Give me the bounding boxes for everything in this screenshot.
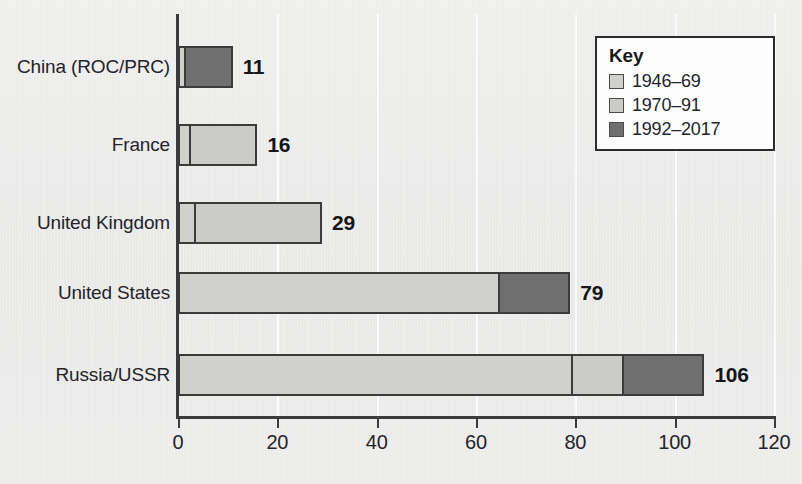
- x-tick-80: [575, 419, 577, 428]
- bar-row: Russia/USSR106: [0, 354, 802, 396]
- stacked-bar[interactable]: [178, 124, 257, 166]
- bar-segment[interactable]: [624, 356, 702, 394]
- x-tick-label-60: 60: [465, 431, 487, 454]
- bar-value-label: 29: [332, 211, 355, 235]
- bar-segment[interactable]: [196, 204, 320, 242]
- stacked-bar[interactable]: [178, 202, 322, 244]
- legend-entry[interactable]: 1970–91: [609, 95, 763, 116]
- x-tick-label-80: 80: [564, 431, 586, 454]
- stacked-bar[interactable]: [178, 272, 570, 314]
- category-label: Russia/USSR: [56, 364, 171, 386]
- legend-label: 1970–91: [632, 95, 701, 116]
- bar-segment[interactable]: [180, 126, 191, 164]
- legend-entry[interactable]: 1946–69: [609, 71, 763, 92]
- x-tick-120: [774, 419, 776, 428]
- bar-segment[interactable]: [191, 126, 255, 164]
- legend-swatch-icon: [609, 74, 624, 89]
- legend-title: Key: [609, 45, 763, 67]
- x-tick-40: [377, 419, 379, 428]
- category-label: United States: [58, 282, 170, 304]
- legend-label: 1992–2017: [632, 119, 720, 140]
- category-label: China (ROC/PRC): [17, 56, 170, 78]
- bar-value-label: 16: [267, 133, 290, 157]
- bar-segment[interactable]: [180, 356, 573, 394]
- bar-value-label: 11: [243, 55, 265, 79]
- stacked-bar[interactable]: [178, 354, 704, 396]
- legend: Key 1946–691970–911992–2017: [595, 36, 775, 151]
- x-tick-label-100: 100: [658, 431, 691, 454]
- bar-row: United Kingdom29: [0, 202, 802, 244]
- stacked-bar[interactable]: [178, 46, 233, 88]
- category-label: United Kingdom: [37, 212, 170, 234]
- bar-value-label: 79: [580, 281, 603, 305]
- x-tick-label-20: 20: [266, 431, 288, 454]
- x-tick-100: [675, 419, 677, 428]
- bar-segment[interactable]: [186, 48, 230, 86]
- bar-segment[interactable]: [180, 274, 500, 312]
- bar-segment[interactable]: [500, 274, 568, 312]
- x-tick-60: [476, 419, 478, 428]
- x-tick-0: [178, 419, 180, 428]
- category-label: France: [112, 134, 170, 156]
- legend-swatch-icon: [609, 122, 624, 137]
- bar-value-label: 106: [714, 363, 748, 387]
- x-tick-label-40: 40: [366, 431, 388, 454]
- legend-label: 1946–69: [632, 71, 701, 92]
- bar-row: United States79: [0, 272, 802, 314]
- x-tick-20: [277, 419, 279, 428]
- stacked-bar-chart: 020406080100120 China (ROC/PRC)11France1…: [0, 0, 802, 484]
- legend-entry[interactable]: 1992–2017: [609, 119, 763, 140]
- x-tick-label-0: 0: [173, 431, 184, 454]
- bar-segment[interactable]: [573, 356, 624, 394]
- x-tick-label-120: 120: [758, 431, 791, 454]
- legend-entries: 1946–691970–911992–2017: [609, 71, 763, 140]
- bar-segment[interactable]: [180, 204, 196, 242]
- legend-swatch-icon: [609, 98, 624, 113]
